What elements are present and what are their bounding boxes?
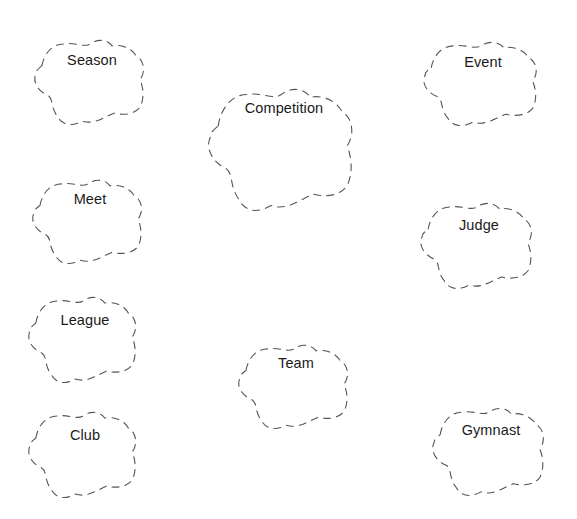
cloud-shape-icon xyxy=(26,295,144,385)
class-label: Event xyxy=(421,54,545,70)
class-label: Club xyxy=(26,427,144,443)
diagram-canvas: Season Competition Event Meet Judge Leag… xyxy=(0,0,577,519)
class-label: Season xyxy=(32,52,152,68)
class-label: Competition xyxy=(205,100,363,116)
cloud-shape-icon xyxy=(418,201,540,291)
cloud-shape-icon xyxy=(26,410,144,500)
class-cloud-competition[interactable]: Competition xyxy=(205,86,363,214)
class-cloud-gymnast[interactable]: Gymnast xyxy=(430,406,552,498)
class-label: Gymnast xyxy=(430,422,552,438)
class-label: Meet xyxy=(30,191,150,207)
class-label: Team xyxy=(236,355,356,371)
cloud-shape-icon xyxy=(430,406,552,498)
class-cloud-event[interactable]: Event xyxy=(421,40,545,128)
class-cloud-meet[interactable]: Meet xyxy=(30,178,150,266)
class-cloud-judge[interactable]: Judge xyxy=(418,201,540,291)
class-label: Judge xyxy=(418,217,540,233)
class-cloud-league[interactable]: League xyxy=(26,295,144,385)
class-cloud-club[interactable]: Club xyxy=(26,410,144,500)
class-label: League xyxy=(26,312,144,328)
class-cloud-team[interactable]: Team xyxy=(236,343,356,431)
class-cloud-season[interactable]: Season xyxy=(32,38,152,127)
